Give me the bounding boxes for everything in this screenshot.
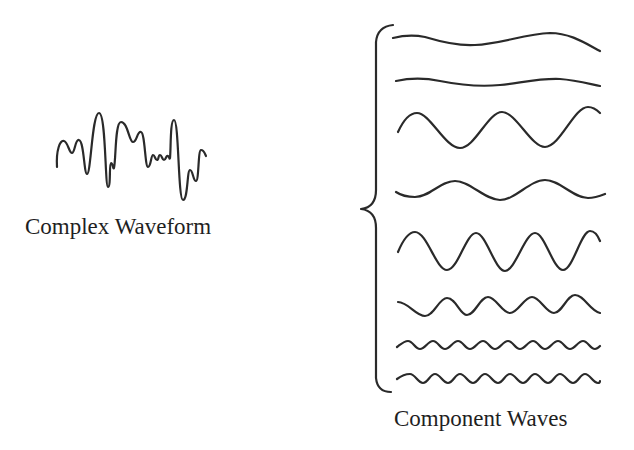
component-wave-7-icon bbox=[397, 341, 600, 349]
waveform-decomposition-diagram: Complex Waveform Component Waves bbox=[0, 0, 634, 450]
component-wave-1-icon bbox=[393, 33, 600, 51]
curly-brace-icon bbox=[361, 25, 393, 392]
component-waves-label: Component Waves bbox=[394, 407, 567, 430]
component-wave-8-icon bbox=[397, 374, 600, 383]
complex-waveform-icon bbox=[57, 113, 206, 200]
component-wave-6-icon bbox=[398, 295, 600, 316]
component-wave-4-icon bbox=[396, 180, 605, 200]
component-wave-5-icon bbox=[398, 231, 600, 271]
component-wave-2-icon bbox=[396, 79, 600, 86]
component-waves-group bbox=[393, 33, 605, 383]
complex-waveform-label: Complex Waveform bbox=[25, 215, 211, 238]
component-wave-3-icon bbox=[398, 107, 600, 148]
